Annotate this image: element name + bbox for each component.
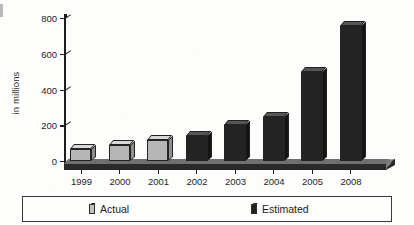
bar-side-2005 xyxy=(322,67,327,161)
y-axis-line xyxy=(64,17,66,169)
bar-face-2000 xyxy=(109,145,130,161)
bar-2008 xyxy=(340,26,361,161)
floor-right-cap xyxy=(386,159,395,170)
x-axis-floor xyxy=(64,164,386,170)
y-tick-label-600: 600 xyxy=(41,48,57,59)
bar-2003 xyxy=(224,125,245,161)
bar-2001 xyxy=(147,140,168,161)
x-axis-label-2002: 2002 xyxy=(186,176,207,187)
legend-swatch-actual-top-icon xyxy=(90,203,96,205)
x-axis-label-2004: 2004 xyxy=(263,176,284,187)
x-tick-2004 xyxy=(273,169,274,174)
x-axis-label-2000: 2000 xyxy=(109,176,130,187)
bar-face-1999 xyxy=(70,149,91,161)
bar-chart-figure: in millions 0200400600800 19992000200120… xyxy=(0,0,414,225)
y-tick-label-0: 0 xyxy=(52,156,57,167)
x-tick-2008 xyxy=(350,169,351,174)
y-tick-label-400: 400 xyxy=(41,84,57,95)
bar-2005 xyxy=(301,72,322,161)
legend-label-actual: Actual xyxy=(100,203,129,215)
legend-label-estimated: Estimated xyxy=(262,203,309,215)
bar-2002 xyxy=(186,136,207,161)
legend-swatch-estimated-top-icon xyxy=(252,203,258,205)
x-tick-2003 xyxy=(235,169,236,174)
x-tick-2001 xyxy=(158,169,159,174)
x-tick-2002 xyxy=(196,169,197,174)
chart-legend: Actual Estimated xyxy=(22,196,392,222)
x-axis-label-2008: 2008 xyxy=(340,176,361,187)
legend-item-estimated: Estimated xyxy=(251,203,309,215)
plot-area: 0200400600800 xyxy=(64,14,394,170)
bar-side-2002 xyxy=(207,132,212,161)
bar-2004 xyxy=(263,117,284,161)
scan-edge-artifact xyxy=(0,4,3,17)
bar-face-2001 xyxy=(147,140,168,161)
bar-side-2001 xyxy=(168,136,173,161)
legend-swatch-estimated-icon xyxy=(251,204,257,214)
bar-face-2003 xyxy=(224,125,245,161)
x-axis-label-2005: 2005 xyxy=(302,176,323,187)
bar-side-2000 xyxy=(130,141,135,161)
bar-face-2002 xyxy=(186,136,207,161)
y-tick-200 xyxy=(60,125,65,126)
bar-side-2004 xyxy=(284,113,289,161)
y-axis-title: in millions xyxy=(10,58,21,128)
bar-face-2005 xyxy=(301,72,322,161)
x-axis-label-2003: 2003 xyxy=(225,176,246,187)
bar-face-2004 xyxy=(263,117,284,161)
x-tick-1999 xyxy=(81,169,82,174)
legend-swatch-actual-icon xyxy=(89,204,95,214)
x-axis-label-2001: 2001 xyxy=(148,176,169,187)
bar-side-2003 xyxy=(245,121,250,161)
x-tick-2000 xyxy=(119,169,120,174)
y-tick-label-800: 800 xyxy=(41,13,57,24)
bar-1999 xyxy=(70,149,91,161)
bar-face-2008 xyxy=(340,26,361,161)
bar-2000 xyxy=(109,145,130,161)
bar-side-2008 xyxy=(361,22,366,161)
x-tick-2005 xyxy=(312,169,313,174)
y-tick-label-200: 200 xyxy=(41,120,57,131)
x-axis-label-1999: 1999 xyxy=(71,176,92,187)
legend-item-actual: Actual xyxy=(89,203,129,215)
